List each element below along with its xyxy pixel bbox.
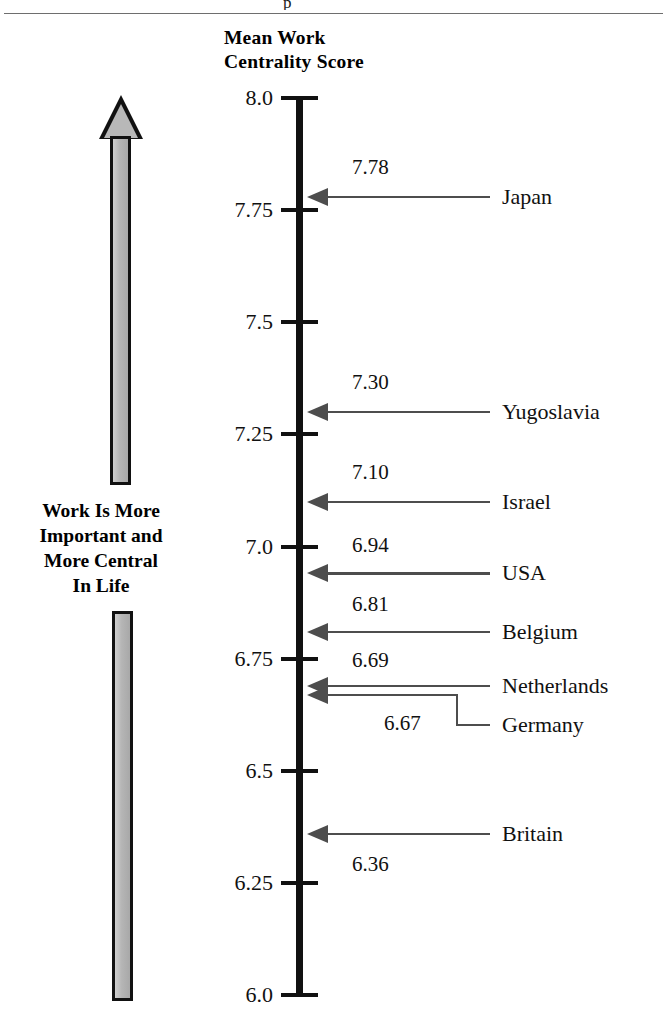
value-arrow-icon <box>307 825 328 843</box>
axis-tick <box>281 432 318 436</box>
axis-tick-label-text: 6.5 <box>201 760 273 782</box>
axis-tick-label: 7.75 <box>195 199 273 221</box>
axis-title-line-2: Centrality Score <box>224 50 444 74</box>
up-arrow-tail <box>112 611 133 1001</box>
axis-tick-label-text: 6.0 <box>201 984 273 1006</box>
leader-line-elbow <box>456 694 458 726</box>
leader-line <box>328 196 490 198</box>
value-arrow-icon <box>307 493 328 511</box>
axis-tick-label-text: 7.25 <box>201 423 273 445</box>
axis-tick-label: 8.0 <box>195 87 273 109</box>
leader-line <box>328 501 490 503</box>
axis-tick-label-text: 6.75 <box>201 648 273 670</box>
leader-line <box>328 694 458 696</box>
axis-tick-label: 6.5 <box>195 760 273 782</box>
leader-line <box>328 411 490 413</box>
axis-tick-label-text: 7.5 <box>201 311 273 333</box>
axis-tick-label: 7.5 <box>195 311 273 333</box>
data-value-label: 6.69 <box>352 650 389 671</box>
data-value-label: 6.67 <box>384 713 421 734</box>
axis-tick <box>281 545 318 549</box>
data-value-label: 7.78 <box>352 157 389 178</box>
axis-tick-label-text: 6.25 <box>201 872 273 894</box>
leader-line <box>328 833 490 835</box>
value-arrow-icon <box>307 686 328 704</box>
leader-line <box>328 572 490 574</box>
country-label: Britain <box>502 823 563 845</box>
value-arrow-icon <box>307 188 328 206</box>
axis-tick-label-text: 8.0 <box>201 87 273 109</box>
axis-tick <box>281 769 318 773</box>
direction-caption-line-4: In Life <box>6 573 196 598</box>
data-value-label: 6.81 <box>352 594 389 615</box>
country-label: Japan <box>502 186 552 208</box>
country-label: Yugoslavia <box>502 401 600 423</box>
axis-tick <box>281 993 318 997</box>
clipped-glyph-above-rule: p <box>283 0 292 10</box>
axis-tick <box>281 657 318 661</box>
country-label: Netherlands <box>502 675 608 697</box>
axis-tick-label: 6.75 <box>195 648 273 670</box>
axis-title: Mean Work Centrality Score <box>224 26 444 74</box>
data-value-label: 7.10 <box>352 462 389 483</box>
axis-tick <box>281 96 318 100</box>
leader-line <box>328 631 490 633</box>
up-arrow-icon-fill <box>104 104 138 138</box>
value-arrow-icon <box>307 403 328 421</box>
direction-caption-line-1: Work Is More <box>6 498 196 523</box>
direction-caption-line-2: Important and <box>6 523 196 548</box>
axis-tick-label: 6.25 <box>195 872 273 894</box>
direction-caption: Work Is More Important and More Central … <box>6 498 196 598</box>
axis-tick-label: 7.0 <box>195 536 273 558</box>
axis-tick-label-text: 7.75 <box>201 199 273 221</box>
header-divider-rule <box>4 13 663 14</box>
axis-tick <box>281 320 318 324</box>
country-label: Belgium <box>502 621 578 643</box>
data-value-label: 6.94 <box>352 535 389 556</box>
axis-tick-label-text: 7.0 <box>201 536 273 558</box>
data-value-label: 6.36 <box>352 854 389 875</box>
country-label: USA <box>502 562 546 584</box>
axis-tick-label: 7.25 <box>195 423 273 445</box>
axis-tick-label: 6.0 <box>195 984 273 1006</box>
leader-line <box>456 724 490 726</box>
axis-title-line-1: Mean Work <box>224 26 444 50</box>
country-label: Israel <box>502 491 551 513</box>
value-arrow-icon <box>307 623 328 641</box>
up-arrow-shaft <box>110 136 131 485</box>
country-label: Germany <box>502 714 584 736</box>
value-arrow-icon <box>307 564 328 582</box>
axis-tick <box>281 208 318 212</box>
data-value-label: 7.30 <box>352 372 389 393</box>
direction-caption-line-3: More Central <box>6 548 196 573</box>
axis-tick <box>281 881 318 885</box>
leader-line <box>328 685 490 687</box>
